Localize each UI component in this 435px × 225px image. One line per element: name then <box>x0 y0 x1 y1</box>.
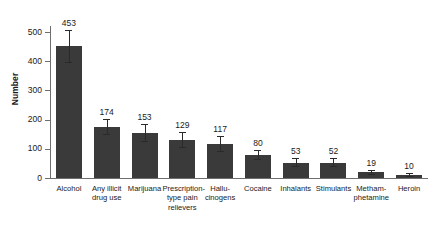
error-bar-cap-lower <box>368 174 375 175</box>
x-axis-category-label-line: Inhalants <box>276 184 316 193</box>
error-bar-line <box>296 158 297 166</box>
error-bar-cap-upper <box>406 173 413 174</box>
x-axis-category-label-line: drug use <box>87 193 127 202</box>
error-bar-cap-lower <box>179 147 186 148</box>
error-bar-line <box>220 136 221 151</box>
error-bar-cap-upper <box>330 158 337 159</box>
error-bar-cap-lower <box>292 166 299 167</box>
x-axis-category-label: Inhalants <box>276 184 316 193</box>
x-axis-category-label-line: Hallu- <box>200 184 240 193</box>
bar-value-label: 80 <box>238 139 278 148</box>
bar-chart: Number 0100200300400500 453Alcohol174Any… <box>0 0 435 225</box>
error-bar-line <box>107 119 108 134</box>
bar-value-label: 52 <box>314 147 354 156</box>
error-bar-cap-lower <box>406 176 413 177</box>
x-axis-category-label: Alcohol <box>49 184 89 193</box>
error-bar-cap-upper <box>65 30 72 31</box>
x-axis-category-label-line: Cocaine <box>238 184 278 193</box>
bar-value-label: 174 <box>87 108 127 117</box>
x-axis-category-label-line: relievers <box>162 203 202 212</box>
bar-value-label: 53 <box>276 147 316 156</box>
x-axis-category-label: Stimulants <box>314 184 354 193</box>
x-axis-category-label-line: Metham- <box>351 184 391 193</box>
bar-value-label: 129 <box>162 121 202 130</box>
error-bar-cap-lower <box>103 134 110 135</box>
bar-value-label: 10 <box>389 162 429 171</box>
x-axis-category-label: Prescription-type painrelievers <box>162 184 202 212</box>
x-axis-category-label-line: phetamine <box>351 193 391 202</box>
x-axis-category-label-line: Prescription- <box>162 184 202 193</box>
x-axis-category-label-line: Any illicit <box>87 184 127 193</box>
x-axis-category-label-line: cinogens <box>200 193 240 202</box>
error-bar-cap-upper <box>179 132 186 133</box>
x-axis-category-label-line: Marijuana <box>125 184 165 193</box>
error-bar-cap-lower <box>217 151 224 152</box>
error-bar-cap-lower <box>141 141 148 142</box>
x-axis-category-label-line: Stimulants <box>314 184 354 193</box>
x-axis-category-label-line: Alcohol <box>49 184 89 193</box>
bars-layer: 453Alcohol174Any illicitdrug use153Marij… <box>0 0 435 225</box>
x-axis-category-label: Heroin <box>389 184 429 193</box>
bar-value-label: 153 <box>125 113 165 122</box>
bar-value-label: 19 <box>351 159 391 168</box>
x-axis-category-label: Cocaine <box>238 184 278 193</box>
x-axis-category-label-line: type pain <box>162 193 202 202</box>
error-bar-cap-lower <box>330 166 337 167</box>
x-axis-category-label: Any illicitdrug use <box>87 184 127 203</box>
x-axis-category-label: Hallu-cinogens <box>200 184 240 203</box>
error-bar-line <box>69 30 70 62</box>
error-bar-cap-upper <box>292 158 299 159</box>
bar[interactable] <box>56 46 82 178</box>
error-bar-cap-upper <box>254 150 261 151</box>
x-axis-category-label-line: Heroin <box>389 184 429 193</box>
error-bar-line <box>145 124 146 141</box>
error-bar-line <box>258 150 259 160</box>
error-bar-cap-upper <box>141 124 148 125</box>
error-bar-cap-upper <box>368 170 375 171</box>
x-axis-category-label: Metham-phetamine <box>351 184 391 203</box>
error-bar-cap-upper <box>217 136 224 137</box>
error-bar-line <box>333 158 334 166</box>
error-bar-cap-upper <box>103 119 110 120</box>
bar-value-label: 117 <box>200 125 240 134</box>
bar-value-label: 453 <box>49 19 89 28</box>
x-axis-category-label: Marijuana <box>125 184 165 193</box>
error-bar-line <box>182 132 183 147</box>
error-bar-cap-lower <box>254 159 261 160</box>
error-bar-cap-lower <box>65 62 72 63</box>
